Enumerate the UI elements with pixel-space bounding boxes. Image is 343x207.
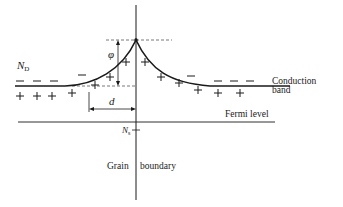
conduction-band-label-line2: band — [272, 86, 316, 95]
donor-density-label: ND — [17, 60, 29, 73]
positive-charges — [16, 58, 244, 100]
conduction-band-label: Conduction band — [272, 77, 316, 95]
grain-boundary-band-diagram: ND φ d Ns Conduction band Fermi level Gr… — [0, 0, 343, 207]
depletion-width-label: d — [109, 96, 115, 107]
negative-charges — [16, 75, 254, 81]
nd-subscript: D — [24, 65, 29, 73]
diagram-graphics — [0, 0, 343, 207]
fermi-level-label: Fermi level — [225, 110, 269, 120]
d-arrowhead-left — [89, 107, 94, 111]
grain-label: Grain — [107, 162, 129, 172]
ns-subscript: s — [128, 130, 130, 136]
barrier-height-label: φ — [108, 49, 114, 60]
peak-point — [134, 38, 138, 42]
phi-arrowhead-top — [116, 40, 120, 45]
d-arrowhead-right — [131, 107, 136, 111]
conduction-band-curve — [15, 40, 290, 86]
boundary-label: boundary — [140, 162, 176, 172]
surface-states-label: Ns — [122, 126, 130, 136]
phi-arrowhead-bottom — [116, 81, 120, 86]
